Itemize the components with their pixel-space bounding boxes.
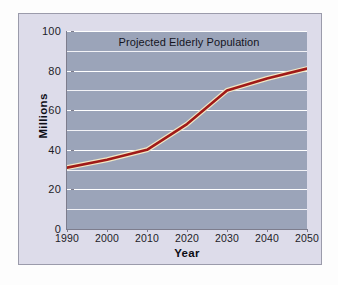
- y-tick-mark-40: [71, 150, 74, 151]
- x-tick-mark-2010: [147, 229, 148, 232]
- x-tick-mark-2050: [307, 229, 308, 232]
- y-tick-mark-60: [71, 110, 74, 111]
- y-tick-mark-80: [71, 71, 74, 72]
- chart-page: Projected Elderly Population 02040608010…: [0, 0, 338, 285]
- y-tick-mark-100: [71, 31, 74, 32]
- plot-region: [67, 31, 307, 229]
- x-tick-label-2010: 2010: [127, 232, 167, 244]
- series-line-projected-elderly-population: [67, 31, 307, 229]
- y-tick-mark-20: [71, 189, 74, 190]
- y-tick-label-80: 80: [31, 65, 61, 77]
- series-main-stroke: [67, 69, 307, 168]
- x-tick-label-1990: 1990: [47, 232, 87, 244]
- y-tick-mark-0: [71, 229, 74, 230]
- y-tick-label-20: 20: [31, 183, 61, 195]
- x-tick-label-2040: 2040: [247, 232, 287, 244]
- x-tick-mark-2000: [107, 229, 108, 232]
- x-axis-ticks: 1990200020102020203020402050: [67, 232, 307, 248]
- x-tick-mark-2040: [267, 229, 268, 232]
- chart-title: Projected Elderly Population: [79, 36, 299, 48]
- chart-figure: Projected Elderly Population 02040608010…: [18, 13, 322, 265]
- x-tick-mark-1990: [67, 229, 68, 232]
- x-tick-mark-2030: [227, 229, 228, 232]
- x-axis-title: Year: [67, 247, 307, 259]
- x-tick-label-2030: 2030: [207, 232, 247, 244]
- x-tick-label-2020: 2020: [167, 232, 207, 244]
- x-tick-label-2000: 2000: [87, 232, 127, 244]
- x-tick-label-2050: 2050: [287, 232, 327, 244]
- y-tick-label-100: 100: [31, 25, 61, 37]
- x-tick-mark-2020: [187, 229, 188, 232]
- plot-background: [67, 31, 307, 229]
- y-axis-line: [66, 31, 67, 230]
- y-axis-title: Millions: [37, 86, 49, 146]
- series-highlight-stroke: [67, 69, 307, 168]
